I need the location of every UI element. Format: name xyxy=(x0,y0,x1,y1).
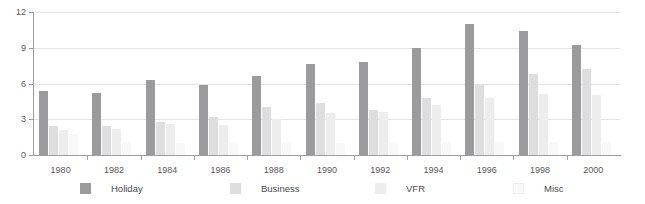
legend-swatch-icon xyxy=(513,183,524,194)
x-axis-tick-mark xyxy=(87,156,88,160)
x-axis-tick-label: 1990 xyxy=(305,165,349,175)
bar-group xyxy=(252,12,291,155)
x-axis-tick-mark xyxy=(300,156,301,160)
bar-business-1996 xyxy=(475,85,484,155)
bar-business-1990 xyxy=(316,103,325,155)
bar-misc-1980 xyxy=(69,134,78,155)
x-axis-tick-mark xyxy=(460,156,461,160)
bar-business-1980 xyxy=(49,126,58,155)
bar-holiday-1984 xyxy=(146,80,155,155)
bar-vfr-1980 xyxy=(59,130,68,155)
legend-label: Business xyxy=(261,183,300,194)
bar-group xyxy=(92,12,131,155)
y-axis-tick-label: 9 xyxy=(8,44,26,53)
x-axis-tick-label: 1980 xyxy=(39,165,83,175)
bar-group xyxy=(199,12,238,155)
x-axis-tick-label: 1998 xyxy=(518,165,562,175)
y-axis-tick-label: 0 xyxy=(8,151,26,160)
y-axis-tick-mark xyxy=(29,155,33,156)
y-axis-tick-mark xyxy=(29,119,33,120)
x-axis-tick-label: 1996 xyxy=(465,165,509,175)
x-axis-tick-mark xyxy=(354,156,355,160)
legend-item-misc[interactable]: Misc xyxy=(513,181,564,195)
bar-holiday-1986 xyxy=(199,85,208,155)
bar-business-1992 xyxy=(369,110,378,155)
bar-misc-1984 xyxy=(176,143,185,155)
bar-vfr-1986 xyxy=(219,125,228,155)
bar-vfr-1990 xyxy=(326,113,335,155)
x-axis-tick-label: 1988 xyxy=(252,165,296,175)
x-axis-tick-mark xyxy=(194,156,195,160)
x-axis-line xyxy=(33,155,621,156)
legend-swatch-icon xyxy=(375,183,386,194)
bar-misc-1982 xyxy=(122,142,131,155)
y-axis-tick-label: 3 xyxy=(8,115,26,124)
bar-misc-1988 xyxy=(282,143,291,155)
x-axis-tick-label: 2000 xyxy=(571,165,615,175)
plot-area xyxy=(34,12,620,155)
y-axis-tick-mark xyxy=(29,84,33,85)
bar-business-2000 xyxy=(582,69,591,155)
bar-holiday-1988 xyxy=(252,76,261,155)
legend-label: Misc xyxy=(544,183,564,194)
x-axis-tick-label: 1984 xyxy=(145,165,189,175)
bar-business-1988 xyxy=(262,107,271,155)
bar-vfr-1996 xyxy=(485,98,494,155)
bar-misc-1986 xyxy=(229,143,238,155)
bar-group xyxy=(519,12,558,155)
bar-misc-1992 xyxy=(389,143,398,155)
y-axis-line xyxy=(33,12,34,156)
bar-chart: 036912 198019821984198619881990199219941… xyxy=(0,0,645,204)
bar-vfr-1988 xyxy=(272,119,281,155)
chart-legend: HolidayBusinessVFRMisc xyxy=(0,181,645,199)
bar-misc-1996 xyxy=(495,142,504,155)
bar-group xyxy=(306,12,345,155)
bar-holiday-1992 xyxy=(359,62,368,155)
bar-holiday-1996 xyxy=(465,24,474,155)
bar-business-1998 xyxy=(529,74,538,155)
bar-holiday-1998 xyxy=(519,31,528,155)
bar-group xyxy=(465,12,504,155)
bar-holiday-1980 xyxy=(39,91,48,155)
x-axis-tick-mark xyxy=(407,156,408,160)
bar-vfr-1998 xyxy=(539,94,548,155)
bar-vfr-1982 xyxy=(112,129,121,155)
y-axis-tick-label: 6 xyxy=(8,80,26,89)
x-axis-tick-label: 1986 xyxy=(198,165,242,175)
bar-vfr-1992 xyxy=(379,112,388,155)
bar-group xyxy=(359,12,398,155)
legend-label: Holiday xyxy=(111,183,143,194)
bar-misc-1998 xyxy=(549,142,558,155)
x-axis-tick-label: 1982 xyxy=(92,165,136,175)
bar-vfr-1994 xyxy=(432,105,441,155)
bar-holiday-2000 xyxy=(572,45,581,155)
bar-business-1994 xyxy=(422,98,431,155)
bar-holiday-1982 xyxy=(92,93,101,155)
legend-item-vfr[interactable]: VFR xyxy=(375,181,425,195)
legend-swatch-icon xyxy=(230,183,241,194)
bar-group xyxy=(39,12,78,155)
bar-business-1986 xyxy=(209,117,218,155)
y-axis-tick-mark xyxy=(29,12,33,13)
x-axis-tick-mark xyxy=(247,156,248,160)
x-axis-tick-mark xyxy=(567,156,568,160)
bar-misc-1994 xyxy=(442,142,451,155)
bar-group xyxy=(412,12,451,155)
bar-misc-2000 xyxy=(602,142,611,155)
bar-holiday-1990 xyxy=(306,64,315,155)
bar-group xyxy=(572,12,611,155)
y-axis-tick-label: 12 xyxy=(8,8,26,17)
bar-vfr-2000 xyxy=(592,95,601,155)
bar-group xyxy=(146,12,185,155)
x-axis-tick-label: 1994 xyxy=(412,165,456,175)
legend-label: VFR xyxy=(406,183,425,194)
x-axis-tick-mark xyxy=(513,156,514,160)
legend-item-holiday[interactable]: Holiday xyxy=(80,181,143,195)
bar-vfr-1984 xyxy=(166,124,175,155)
legend-item-business[interactable]: Business xyxy=(230,181,300,195)
y-axis-tick-mark xyxy=(29,48,33,49)
x-axis-tick-mark xyxy=(141,156,142,160)
bar-business-1982 xyxy=(102,126,111,155)
bar-misc-1990 xyxy=(336,143,345,155)
x-axis-tick-label: 1992 xyxy=(358,165,402,175)
